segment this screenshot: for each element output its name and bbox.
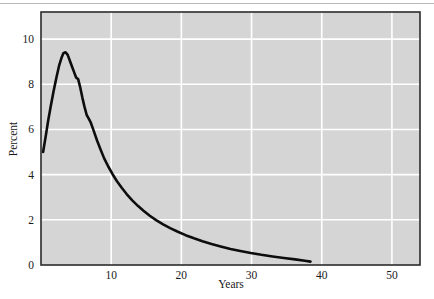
top-divider-rule [0,3,434,4]
y-tick-label: 0 [28,259,34,271]
y-tick-label: 10 [23,33,35,45]
y-tick-label: 4 [28,169,34,181]
plot-area-background [41,12,420,265]
y-axis-title: Percent [7,121,19,156]
x-tick-label: 20 [176,269,188,281]
y-tick-label: 8 [28,78,34,90]
x-tick-label: 10 [105,269,117,281]
x-tick-label: 30 [246,269,258,281]
percent-by-years-line-chart: 0246810 1020304050 Percent Years [0,0,434,299]
x-tick-label: 50 [386,269,398,281]
y-axis-tick-labels: 0246810 [23,33,35,271]
x-axis-title: Years [218,278,244,290]
y-tick-label: 2 [28,214,34,226]
x-axis-tick-labels: 1020304050 [105,269,397,281]
x-tick-label: 40 [316,269,328,281]
y-tick-label: 6 [28,123,34,135]
chart-figure: 0246810 1020304050 Percent Years [0,0,434,299]
